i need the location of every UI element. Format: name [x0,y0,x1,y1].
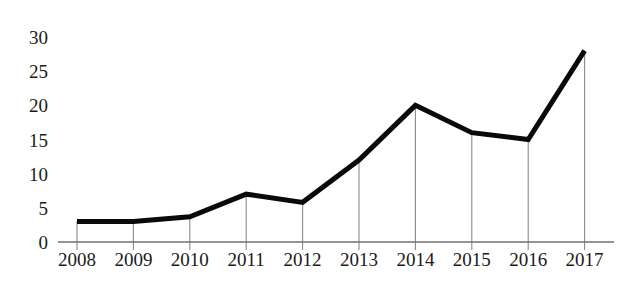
y-axis-tick-labels: 051015202530 [29,27,48,253]
x-tick-label: 2017 [566,249,604,270]
line-chart: 051015202530 200820092010201120122013201… [0,0,633,300]
y-tick-label: 0 [39,232,49,253]
x-tick-label: 2008 [58,249,96,270]
chart-canvas: 051015202530 200820092010201120122013201… [0,0,633,300]
y-tick-label: 5 [39,198,49,219]
x-tick-label: 2016 [509,249,547,270]
x-tick-label: 2010 [171,249,209,270]
y-tick-label: 15 [29,130,48,151]
x-tick-label: 2013 [340,249,378,270]
x-tick-label: 2012 [284,249,322,270]
x-tick-label: 2015 [453,249,491,270]
x-tick-label: 2011 [228,249,265,270]
data-series [77,51,585,222]
y-tick-label: 30 [29,27,48,48]
y-tick-label: 10 [29,164,48,185]
series-line-path [77,51,585,222]
y-tick-label: 25 [29,61,48,82]
x-axis-tick-labels: 2008200920102011201220132014201520162017 [58,249,604,270]
y-tick-label: 20 [29,95,48,116]
x-tick-label: 2009 [114,249,152,270]
x-tick-label: 2014 [396,249,435,270]
